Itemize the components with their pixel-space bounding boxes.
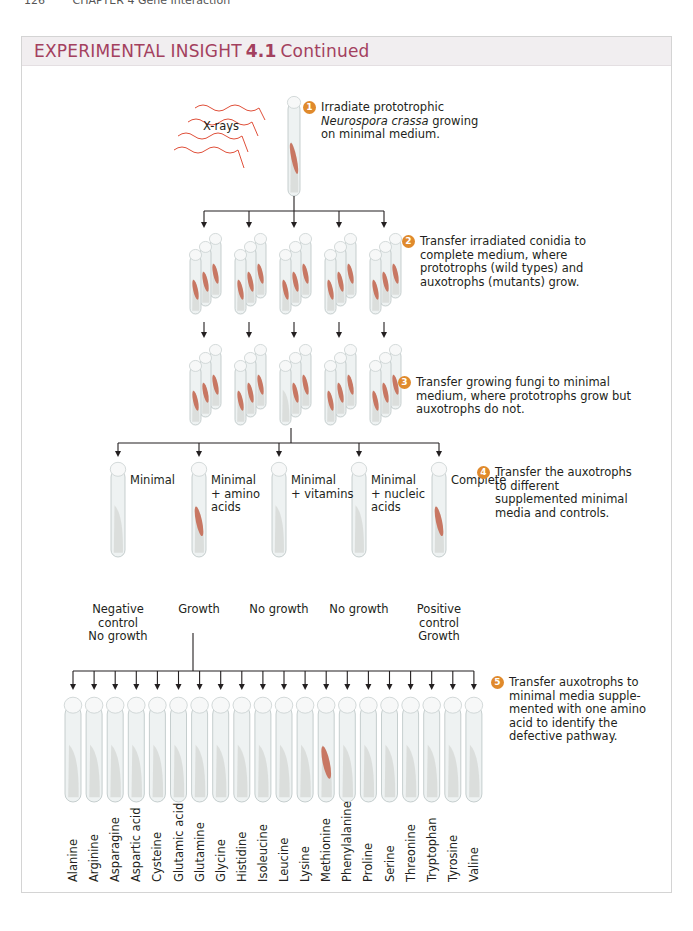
- tube-amino-13: [317, 697, 335, 802]
- step-3-text: 3Transfer growing fungi to minimalmedium…: [416, 376, 631, 417]
- amino-acid-label-18: Tryptophan: [425, 817, 439, 882]
- tube-front: [234, 249, 246, 314]
- amino-acid-label-14: Phenylalanine: [340, 801, 354, 882]
- step-5-number-icon: 5: [491, 676, 504, 689]
- tube-front: [189, 249, 201, 314]
- medium-label-2: Minimal+ aminoacids: [211, 474, 260, 515]
- tube-front: [279, 249, 291, 314]
- tube-front: [234, 360, 246, 425]
- tube-medium-1: [110, 462, 125, 557]
- tube-amino-9: [233, 697, 251, 802]
- amino-acid-label-5: Cysteine: [150, 832, 164, 882]
- step-4-text: 4Transfer the auxotrophsto differentsupp…: [495, 466, 632, 520]
- tube-amino-20: [465, 697, 483, 802]
- xray-label: X-rays: [203, 120, 239, 134]
- amino-acid-label-17: Threonine: [404, 824, 418, 882]
- tube-amino-17: [402, 697, 420, 802]
- tube-front: [324, 360, 336, 425]
- tube-amino-6: [170, 697, 188, 802]
- tube-amino-4: [128, 697, 146, 802]
- amino-acid-label-15: Proline: [361, 843, 375, 882]
- tube-amino-2: [85, 697, 103, 802]
- xray-wave-icon: [195, 105, 265, 120]
- amino-acid-label-9: Histidine: [235, 832, 249, 882]
- amino-acid-label-2: Arginine: [87, 834, 101, 882]
- amino-acid-label-8: Glycine: [214, 839, 228, 882]
- tube-amino-14: [339, 697, 357, 802]
- amino-acid-label-10: Isoleucine: [256, 824, 270, 882]
- amino-acid-label-7: Glutamine: [193, 822, 207, 882]
- amino-acid-label-4: Aspartic acid: [129, 808, 143, 882]
- amino-acid-label-3: Asparagine: [108, 817, 122, 882]
- tube-amino-8: [212, 697, 230, 802]
- tube-step1: [287, 96, 300, 196]
- tube-amino-16: [381, 697, 399, 802]
- medium-label-3: Minimal+ vitamins: [291, 474, 354, 501]
- tube-front: [324, 249, 336, 314]
- tube-front: [279, 360, 291, 425]
- step-2-number-icon: 2: [402, 235, 415, 248]
- tube-front: [369, 249, 381, 314]
- medium-result-5: PositivecontrolGrowth: [389, 603, 489, 644]
- amino-acid-label-11: Leucine: [277, 838, 291, 882]
- tube-amino-7: [191, 697, 209, 802]
- medium-label-1: Minimal: [130, 474, 175, 488]
- amino-acid-label-19: Tyrosine: [446, 835, 460, 882]
- tube-amino-10: [254, 697, 272, 802]
- tube-front: [369, 360, 381, 425]
- tube-medium-5: [431, 462, 446, 557]
- xray-wave-icon: [174, 147, 244, 168]
- tube-amino-19: [444, 697, 462, 802]
- medium-label-4: Minimal+ nucleicacids: [371, 474, 425, 515]
- amino-acid-label-1: Alanine: [66, 839, 80, 882]
- tube-medium-2: [191, 462, 206, 557]
- tube-amino-5: [149, 697, 167, 802]
- tube-amino-12: [296, 697, 314, 802]
- step-4-number-icon: 4: [477, 466, 490, 479]
- step-1-text: 1Irradiate prototrophicNeurospora crassa…: [321, 101, 478, 142]
- tube-amino-1: [64, 697, 82, 802]
- amino-acid-label-6: Glutamic acid: [172, 803, 186, 882]
- step-3-number-icon: 3: [398, 376, 411, 389]
- step-1-number-icon: 1: [303, 101, 316, 114]
- tube-amino-15: [360, 697, 378, 802]
- amino-acid-label-16: Serine: [383, 845, 397, 882]
- tube-amino-11: [275, 697, 293, 802]
- tube-amino-18: [423, 697, 441, 802]
- tube-medium-3: [271, 462, 286, 557]
- step-5-text: 5Transfer auxotrophs tominimal media sup…: [509, 676, 646, 744]
- amino-acid-label-13: Methionine: [319, 818, 333, 882]
- tube-medium-4: [351, 462, 366, 557]
- amino-acid-label-12: Lysine: [298, 846, 312, 882]
- amino-acid-label-20: Valine: [467, 847, 481, 882]
- tube-amino-3: [106, 697, 124, 802]
- step-2-text: 2Transfer irradiated conidia tocomplete …: [420, 235, 586, 289]
- tube-front: [189, 360, 201, 425]
